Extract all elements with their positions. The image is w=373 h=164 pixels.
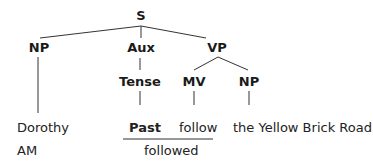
edge-vp-np (218, 57, 248, 70)
edge-s-vp (141, 26, 206, 38)
node-np-object: NP (239, 75, 259, 89)
node-aux: Aux (127, 41, 155, 55)
bottom-label-am: AM (17, 144, 37, 158)
node-s: S (136, 9, 145, 23)
surface-verb-followed: followed (144, 144, 199, 158)
terminal-verb: follow (179, 121, 217, 135)
edge-vp-mv (194, 57, 218, 70)
node-mv: MV (183, 75, 206, 89)
node-tense: Tense (119, 75, 161, 89)
edge-s-np (40, 26, 141, 38)
terminal-tense: Past (129, 121, 161, 135)
node-vp: VP (207, 41, 227, 55)
node-np-subject: NP (29, 41, 49, 55)
terminal-subject: Dorothy (17, 121, 69, 135)
terminal-object: the Yellow Brick Road (233, 121, 372, 135)
